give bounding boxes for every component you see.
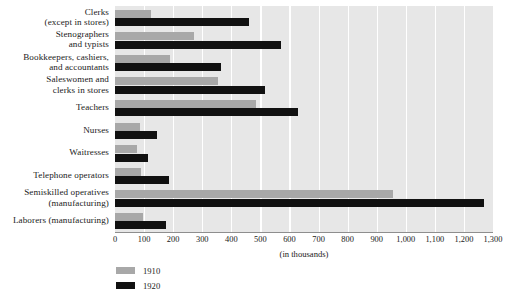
category-label: Waitresses (69, 147, 109, 157)
bar-group (115, 119, 493, 142)
bar-1910 (115, 10, 151, 18)
bar-group (115, 6, 493, 29)
bar-1910 (115, 168, 141, 176)
x-tick-label: 100 (138, 234, 151, 245)
x-tick-label: 1,200 (455, 234, 474, 245)
bar-1910 (115, 100, 256, 108)
bar-group (115, 164, 493, 187)
plot-area (115, 6, 493, 232)
bar-1910 (115, 190, 393, 198)
x-tick-label: 700 (312, 234, 325, 245)
bar-1920 (115, 86, 265, 94)
legend-label: 1910 (143, 266, 160, 276)
x-axis-tick-labels: 01002003004005006007008009001,0001,1001,… (115, 234, 493, 247)
bar-1920 (115, 63, 221, 71)
x-tick-label: 200 (167, 234, 180, 245)
bar-1910 (115, 123, 140, 131)
legend-swatch-icon (116, 282, 135, 290)
x-tick-label: 600 (283, 234, 296, 245)
bar-1920 (115, 154, 148, 162)
bar-group (115, 209, 493, 232)
category-label: Saleswomen and clerks in stores (46, 74, 109, 95)
legend-item: 1920 (116, 279, 256, 292)
bar-group (115, 29, 493, 52)
category-label: Teachers (76, 102, 109, 112)
bar-1920 (115, 176, 169, 184)
bar-group (115, 187, 493, 210)
bar-1910 (115, 145, 137, 153)
x-tick-label: 800 (341, 234, 354, 245)
category-axis-labels: Clerks (except in stores)Stenographers a… (0, 6, 112, 232)
x-tick-label: 1,300 (484, 234, 503, 245)
x-tick-label: 1,100 (425, 234, 444, 245)
x-tick-label: 500 (254, 234, 267, 245)
bar-1920 (115, 41, 281, 49)
bar-1910 (115, 77, 218, 85)
x-axis-line (115, 232, 493, 233)
category-label: Bookkeepers, cashiers, and accountants (23, 52, 109, 73)
bar-1920 (115, 18, 249, 26)
x-tick-label: 900 (370, 234, 383, 245)
bar-group (115, 142, 493, 165)
bar-chart: Clerks (except in stores)Stenographers a… (0, 0, 508, 299)
legend-label: 1920 (143, 281, 160, 291)
bar-group (115, 96, 493, 119)
x-axis-title: (in thousands) (115, 249, 493, 259)
legend-swatch-icon (116, 267, 135, 275)
bar-1920 (115, 221, 166, 229)
bar-1920 (115, 199, 484, 207)
legend-item: 1910 (116, 264, 256, 277)
category-label: Laborers (manufacturing) (13, 215, 109, 225)
bar-group (115, 74, 493, 97)
bar-1920 (115, 131, 157, 139)
category-label: Telephone operators (33, 170, 109, 180)
bar-1910 (115, 213, 143, 221)
category-label: Clerks (except in stores) (45, 7, 109, 28)
category-label: Semiskilled operatives (manufacturing) (24, 187, 109, 208)
x-tick-label: 400 (225, 234, 238, 245)
x-tick-label: 0 (113, 234, 117, 245)
chart-legend: 19101920 (116, 264, 256, 294)
gridline (493, 6, 494, 232)
bar-1910 (115, 32, 194, 40)
bar-1920 (115, 108, 298, 116)
category-label: Stenographers and typists (56, 29, 109, 50)
category-label: Nurses (83, 125, 109, 135)
x-tick-label: 1,000 (396, 234, 415, 245)
bar-group (115, 51, 493, 74)
x-tick-label: 300 (196, 234, 209, 245)
bar-1910 (115, 55, 170, 63)
